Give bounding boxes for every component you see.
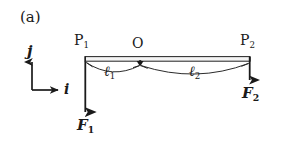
point-label-p1: P1 (74, 33, 89, 49)
force-label-f1: F1 (77, 118, 94, 134)
force-label-f2-symbol: F (242, 84, 253, 102)
length-label-l1-subscript: 1 (110, 71, 116, 81)
point-label-p1-base: P (74, 32, 83, 48)
beam-rect (85, 57, 250, 62)
force-label-f2: F2 (242, 86, 259, 102)
panel-tag: (a) (20, 10, 41, 25)
point-label-p1-subscript: 1 (83, 40, 89, 50)
length-label-l1: ℓ1 (104, 64, 115, 80)
length-label-l2-subscript: 2 (195, 71, 201, 81)
basis-vector-j-label: j (27, 44, 32, 59)
force-label-f1-subscript: 1 (88, 124, 94, 135)
basis-vectors (32, 62, 58, 90)
point-label-p2: P2 (240, 33, 255, 49)
force-label-f1-symbol: F (77, 116, 88, 134)
force-label-f2-subscript: 2 (253, 92, 259, 103)
point-label-p2-base: P (240, 32, 249, 48)
basis-vector-i-label: i (64, 82, 69, 96)
point-label-o: O (132, 36, 143, 50)
figure-panel-a: (a) j i P1 O P2 ℓ1 ℓ2 F1 F2 (0, 0, 296, 146)
length-label-l2: ℓ2 (189, 64, 200, 80)
point-label-p2-subscript: 2 (249, 40, 255, 50)
diagram-canvas (0, 0, 296, 146)
beam-body (85, 57, 250, 62)
